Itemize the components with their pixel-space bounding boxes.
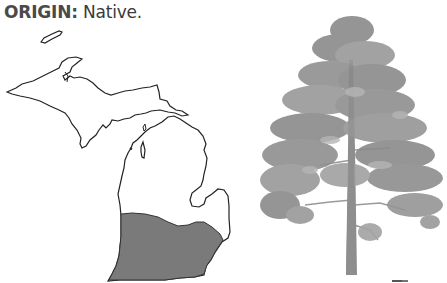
native-range-shading xyxy=(109,213,223,280)
tree-illustration xyxy=(260,0,447,283)
isle-royale-shape xyxy=(41,31,62,43)
page-mark-2 xyxy=(402,280,408,282)
manitou-island-shape xyxy=(130,148,132,150)
michigan-range-map xyxy=(0,0,250,283)
beaver-island-shape xyxy=(143,124,146,131)
